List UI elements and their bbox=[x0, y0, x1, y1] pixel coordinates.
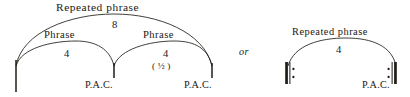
repeat-begin-thin-bar bbox=[289, 62, 290, 84]
label-repeated-phrase-b: Repeated phrase bbox=[292, 27, 368, 37]
repeat-begin-sign bbox=[285, 62, 294, 84]
repeat-begin-thick-bar bbox=[285, 62, 288, 84]
label-phrase-a: Phrase bbox=[44, 30, 75, 41]
label-cadence-b: P.A.C. bbox=[362, 80, 390, 90]
repeat-end-thick-bar bbox=[394, 62, 397, 84]
label-repeated-phrase-a: Repeated phrase bbox=[56, 2, 139, 13]
label-measure-count-phrase-a: 4 bbox=[64, 49, 70, 60]
repeat-end-thin-bar bbox=[392, 62, 393, 84]
repeat-begin-dot-lower bbox=[292, 76, 294, 78]
label-or-separator: or bbox=[239, 47, 249, 57]
outer-span-arc-b bbox=[288, 38, 396, 66]
figure-canvas: Repeated phrase 8 Phrase 4 P.A.C. Phrase… bbox=[0, 0, 410, 97]
label-measure-count-phrase-b: 4 bbox=[163, 49, 169, 60]
repeat-begin-dot-upper bbox=[292, 68, 294, 70]
repeat-end-dot-lower bbox=[387, 76, 389, 78]
label-measure-count-4-b: 4 bbox=[336, 45, 342, 56]
label-cadence-phrase-b: P.A.C. bbox=[184, 80, 212, 90]
label-cadence-phrase-a: P.A.C. bbox=[85, 80, 113, 90]
label-phrase-b: Phrase bbox=[143, 30, 174, 41]
label-measure-count-8: 8 bbox=[112, 20, 118, 31]
label-phrase-b-annotation: ( ½ ) bbox=[152, 62, 171, 71]
repeat-end-dot-upper bbox=[387, 68, 389, 70]
